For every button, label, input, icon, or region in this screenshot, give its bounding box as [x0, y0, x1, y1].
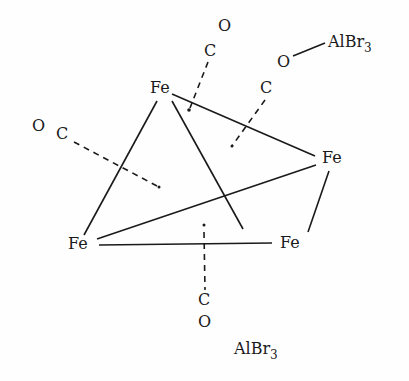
dash-left-carbonyl — [74, 142, 157, 186]
atom-c-top: C — [204, 43, 216, 59]
albr3-top: AlBr3 — [328, 34, 372, 50]
bond-fe-top-fe-left — [84, 101, 157, 235]
albr3-top-subscript: 3 — [364, 41, 372, 55]
dot-bottom — [203, 224, 206, 227]
atom-c-left: C — [56, 126, 68, 142]
atom-c-right: C — [260, 80, 272, 96]
bond-o-albr3 — [293, 43, 325, 56]
atom-o-left: O — [32, 118, 45, 134]
dash-top-carbonyl — [190, 62, 208, 108]
bond-fe-left-fe-right — [97, 165, 316, 239]
bond-fe-left-fe-bottom — [99, 243, 272, 245]
dot-right — [231, 145, 234, 148]
albr3-top-base: AlBr — [328, 32, 364, 51]
atom-o-bottom: O — [198, 314, 211, 330]
bond-fe-right-fe-bottom — [308, 171, 329, 232]
diagram-canvas: Fe Fe Fe Fe O C O C AlBr3 O C C O AlBr3 — [0, 0, 409, 381]
atom-fe-top: Fe — [150, 80, 170, 96]
dot-top — [187, 108, 191, 112]
atom-o-right: O — [277, 54, 290, 70]
atom-o-top: O — [218, 18, 231, 34]
albr3-bottom-subscript: 3 — [270, 348, 278, 362]
atom-fe-bottom: Fe — [280, 235, 300, 251]
atom-c-bottom: C — [198, 292, 210, 308]
dot-left — [158, 186, 161, 189]
atom-fe-right: Fe — [322, 150, 342, 166]
atom-fe-left: Fe — [68, 236, 88, 252]
albr3-bottom-base: AlBr — [234, 339, 270, 358]
albr3-bottom: AlBr3 — [234, 341, 278, 357]
dash-bottom-carbonyl — [204, 232, 205, 290]
bond-fe-top-fe-right — [172, 94, 315, 156]
